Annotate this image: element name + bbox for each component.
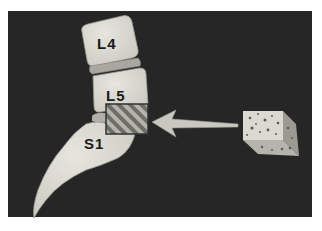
bone-graft-block [243,111,299,156]
label-l4: L4 [97,36,117,51]
spine-diagram [0,0,322,231]
graft-site [106,104,148,134]
label-s1: S1 [84,136,104,151]
insertion-arrow-icon [152,110,238,137]
label-l5: L5 [106,88,126,103]
